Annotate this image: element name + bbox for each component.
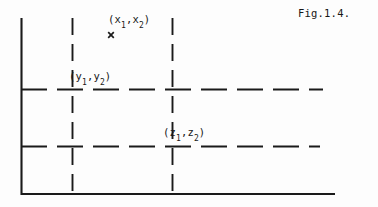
point-label-x-close: ) (144, 13, 151, 25)
point-marker-x (108, 32, 114, 38)
point-label-y-base: (y (69, 70, 82, 82)
point-label-z-sub2: 2 (194, 134, 199, 143)
point-label-z-close: ) (199, 126, 206, 138)
point-label-z-base: (z (163, 126, 176, 138)
point-label-y-mid: ,y (87, 70, 100, 82)
point-label-x-mid: ,x (126, 13, 139, 25)
figure-container: Fig.1.4. (x1,x2) (y1,y2) (z1,z2) (0, 0, 378, 207)
point-label-z: (z1,z2) (163, 127, 205, 141)
point-label-z-mid: ,z (181, 126, 194, 138)
point-label-x: (x1,x2) (108, 14, 150, 28)
point-label-x-sub1: 1 (121, 21, 126, 30)
figure-drawing (0, 0, 378, 207)
point-label-y-sub1: 1 (82, 78, 87, 87)
point-label-y-close: ) (105, 70, 112, 82)
point-label-x-base: (x (108, 13, 121, 25)
point-label-y-sub2: 2 (100, 78, 105, 87)
point-label-z-sub1: 1 (176, 134, 181, 143)
point-label-y: (y1,y2) (69, 71, 111, 85)
figure-caption: Fig.1.4. (298, 8, 350, 19)
point-label-x-sub2: 2 (139, 21, 144, 30)
